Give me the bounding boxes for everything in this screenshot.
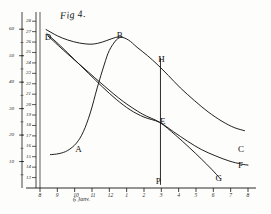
inner-scale-label: 28 <box>26 18 31 23</box>
inner-scale-label: 25 <box>26 49 31 54</box>
inner-scale-label: 16 <box>26 143 31 148</box>
point-label-h: H <box>158 55 165 64</box>
inner-scale-label: 17 <box>26 133 31 138</box>
point-label-b: B <box>117 31 123 40</box>
tick-marks-group <box>19 21 248 192</box>
point-label-a: A <box>75 145 82 154</box>
outer-scale-label: 10 <box>9 159 14 164</box>
curve-DEG <box>48 36 220 179</box>
inner-scale-label: 20 <box>26 102 31 107</box>
inner-scale-label: 27 <box>26 29 31 34</box>
point-label-p: P <box>156 177 161 186</box>
x-axis-hour-label: 12 <box>108 193 114 199</box>
curves-group <box>46 30 248 179</box>
inner-scale-label: 19 <box>26 112 31 117</box>
inner-scale-label: 26 <box>26 39 31 44</box>
point-label-g: G <box>216 174 223 183</box>
point-label-c: C <box>238 145 244 154</box>
outer-scale-label: 30 <box>9 106 14 111</box>
x-axis-hour-label: 2 <box>143 193 146 199</box>
figure-plate: Fig 4. 6 Janv. 605040302010 282726252423… <box>0 0 271 214</box>
inner-scale-label: 13 <box>26 175 31 180</box>
x-axis-hour-label: 11 <box>91 193 96 199</box>
point-label-d: D <box>45 33 52 42</box>
point-label-f: F <box>238 161 243 170</box>
point-label-e: E <box>160 117 166 126</box>
outer-scale-label: 50 <box>9 53 14 58</box>
x-axis-hour-label: 1 <box>125 193 128 199</box>
x-axis-hour-label: 9 <box>56 193 59 199</box>
x-axis-hour-label: 6 <box>212 193 215 199</box>
x-axis-hour-label: 10 <box>73 193 79 199</box>
curve-ABC <box>50 37 121 155</box>
inner-scale-label: 15 <box>26 154 31 159</box>
inner-scale-label: 23 <box>26 70 31 75</box>
inner-scale-label: 21 <box>26 91 31 96</box>
inner-scale-label: 14 <box>26 164 31 169</box>
figure-title: Fig 4. <box>60 8 87 21</box>
x-axis-hour-label: 3 <box>160 193 163 199</box>
x-axis-hour-label: 8 <box>247 193 250 199</box>
outer-scale-label: 40 <box>9 79 14 84</box>
outer-scale-label: 60 <box>9 26 14 31</box>
inner-scale-label: 18 <box>26 122 31 127</box>
x-axis-hour-label: 5 <box>195 193 198 199</box>
x-axis-hour-label: 4 <box>177 193 180 199</box>
inner-scale-label: 24 <box>26 60 31 65</box>
inner-scale-label: 22 <box>26 81 31 86</box>
axes-group <box>22 12 256 188</box>
outer-scale-label: 20 <box>9 132 14 137</box>
x-axis-hour-label: 7 <box>229 193 232 199</box>
engraving-canvas <box>0 0 271 214</box>
x-axis-hour-label: 8 <box>39 193 42 199</box>
